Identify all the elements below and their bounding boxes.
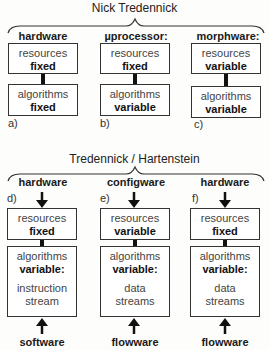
connector [133, 74, 137, 84]
resources-box: resources fixed [190, 208, 260, 240]
algorithms-box: algorithms variable: data streams [190, 246, 260, 317]
column-tag: c) [194, 118, 203, 130]
column-header: morphware: [188, 30, 268, 42]
column-header: hardware [190, 176, 260, 188]
column-footer: flowware [100, 336, 170, 348]
connector [224, 74, 228, 86]
resources-box: resources fixed [100, 43, 170, 74]
column-footer: flowware [190, 336, 260, 348]
algorithms-box: algorithms fixed [8, 84, 78, 116]
column-tag: d) [7, 192, 17, 204]
bottom-title: Tredennick / Hartenstein [0, 152, 269, 166]
column-tag: a) [8, 117, 18, 129]
connector [41, 74, 45, 84]
column-footer: software [7, 336, 77, 348]
algorithms-box: algorithms variable: data streams [100, 246, 170, 317]
column-tag: e) [100, 192, 110, 204]
column-tag: f) [192, 192, 199, 204]
algorithms-box: algorithms variable [191, 86, 261, 118]
column-header: µprocessor: [96, 30, 176, 42]
resources-box: resources fixed [8, 43, 78, 74]
top-title: Nick Tredennick [0, 1, 269, 15]
resources-box: resources fixed [7, 208, 77, 240]
column-header: hardware [8, 176, 78, 188]
column-header: configware [96, 176, 176, 188]
column-header: hardware [8, 30, 78, 42]
resources-box: resources variable [191, 43, 261, 74]
resources-box: resources variable [100, 208, 170, 240]
algorithms-box: algorithms variable: instruction stream [7, 246, 77, 317]
column-tag: b) [100, 117, 110, 129]
algorithms-box: algorithms variable [100, 84, 170, 116]
